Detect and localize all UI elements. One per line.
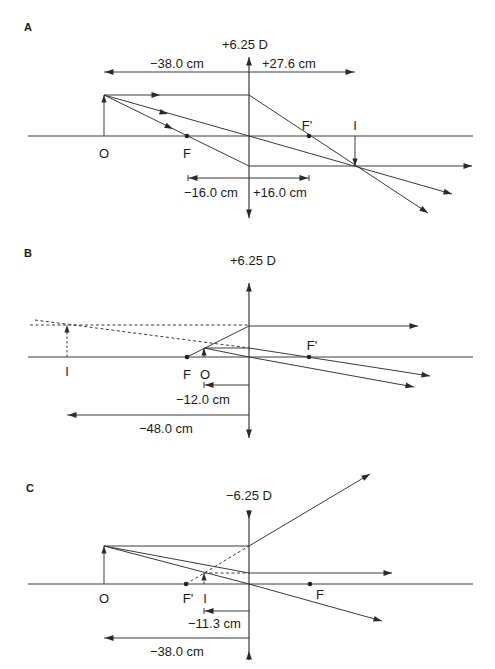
light-ray — [104, 95, 472, 166]
lens-power-label: +6.25 D — [222, 37, 268, 52]
object-arrow-head-icon — [101, 546, 106, 554]
dimension-label: −38.0 cm — [150, 644, 204, 659]
dimension-label: −12.0 cm — [176, 392, 230, 407]
dimension-arrow-icon — [205, 382, 214, 388]
point-label-F-prime: F' — [183, 591, 193, 606]
point-label-O: O — [99, 146, 109, 161]
point-label-F: F — [183, 367, 191, 382]
point-label-I: I — [65, 364, 69, 379]
light-ray — [104, 474, 370, 546]
point-label-F-prime: F' — [307, 338, 317, 353]
dimension-arrow-icon — [189, 175, 198, 181]
point-label-F: F — [183, 146, 191, 161]
dimension-arrow-icon — [105, 69, 114, 75]
panel-label: A — [24, 21, 32, 33]
lens-power-label: −6.25 D — [226, 488, 272, 503]
dimension-label: +27.6 cm — [262, 56, 316, 71]
light-ray — [104, 546, 392, 573]
lens-power-label: +6.25 D — [230, 253, 276, 268]
lens-arrow-up-icon — [246, 283, 252, 292]
dimension-arrow-icon — [105, 635, 114, 641]
panel-B: B+6.25 DIFOF'−12.0 cm−48.0 cm — [24, 247, 473, 438]
focal-point-F-dot — [185, 134, 190, 139]
ray-direction-icon — [164, 123, 173, 129]
thin-lens-ray-diagrams: A+6.25 DOFF'I−38.0 cm+27.6 cm−16.0 cm+16… — [0, 0, 495, 669]
ray-arrow-icon — [373, 616, 382, 622]
ray-arrow-icon — [383, 570, 392, 576]
focal-point-F-prime-dot — [307, 355, 312, 360]
dimension-label: −48.0 cm — [139, 421, 193, 436]
focal-point-F-dot — [308, 582, 313, 587]
dimension-label: −11.3 cm — [188, 616, 241, 631]
panel-A: A+6.25 DOFF'I−38.0 cm+27.6 cm−16.0 cm+16… — [24, 21, 473, 218]
lens-arrow-down-icon — [246, 209, 252, 218]
dimension-label: +16.0 cm — [253, 185, 307, 200]
image-arrow-head-icon — [64, 325, 69, 333]
dimension-arrow-icon — [68, 412, 77, 418]
light-ray — [204, 348, 414, 387]
lens-arrow-inward-top-icon — [246, 510, 252, 519]
dimension-arrow-icon — [299, 175, 308, 181]
ray-arrow-icon — [409, 323, 418, 329]
ray-arrow-icon — [463, 163, 472, 169]
ray-arrow-icon — [419, 206, 428, 213]
light-ray — [104, 95, 452, 194]
lens-arrow-inward-bottom-icon — [246, 651, 252, 660]
focal-point-F-prime-dot — [184, 582, 189, 587]
image-arrow-head-icon — [352, 158, 357, 166]
panel-C: C−6.25 DOF'IF−11.3 cm−38.0 cm — [26, 474, 473, 660]
ray-arrow-icon — [443, 189, 452, 195]
dimension-arrow-icon — [345, 69, 354, 75]
lens-arrow-down-icon — [246, 429, 252, 438]
dimension-label: −38.0 cm — [150, 56, 204, 71]
ray-arrow-icon — [421, 372, 430, 378]
panel-label: C — [26, 482, 34, 494]
ray-direction-icon — [151, 92, 160, 98]
dimension-label: −16.0 cm — [184, 185, 238, 200]
lens-arrow-up-icon — [246, 57, 252, 66]
panel-label: B — [24, 247, 32, 259]
point-label-O: O — [200, 367, 210, 382]
focal-point-F-dot — [185, 355, 190, 360]
point-label-I: I — [203, 591, 207, 606]
ray-arrow-icon — [405, 383, 414, 389]
focal-point-F-prime-dot — [307, 134, 312, 139]
virtual-ray — [186, 546, 249, 584]
point-label-I: I — [353, 118, 357, 133]
point-label-O: O — [99, 591, 109, 606]
point-label-F: F — [316, 587, 324, 602]
dimension-arrow-icon — [205, 608, 214, 614]
light-ray — [187, 326, 418, 357]
point-label-F-prime: F' — [302, 118, 312, 133]
ray-arrow-icon — [361, 474, 370, 481]
ray-direction-icon — [159, 109, 168, 115]
